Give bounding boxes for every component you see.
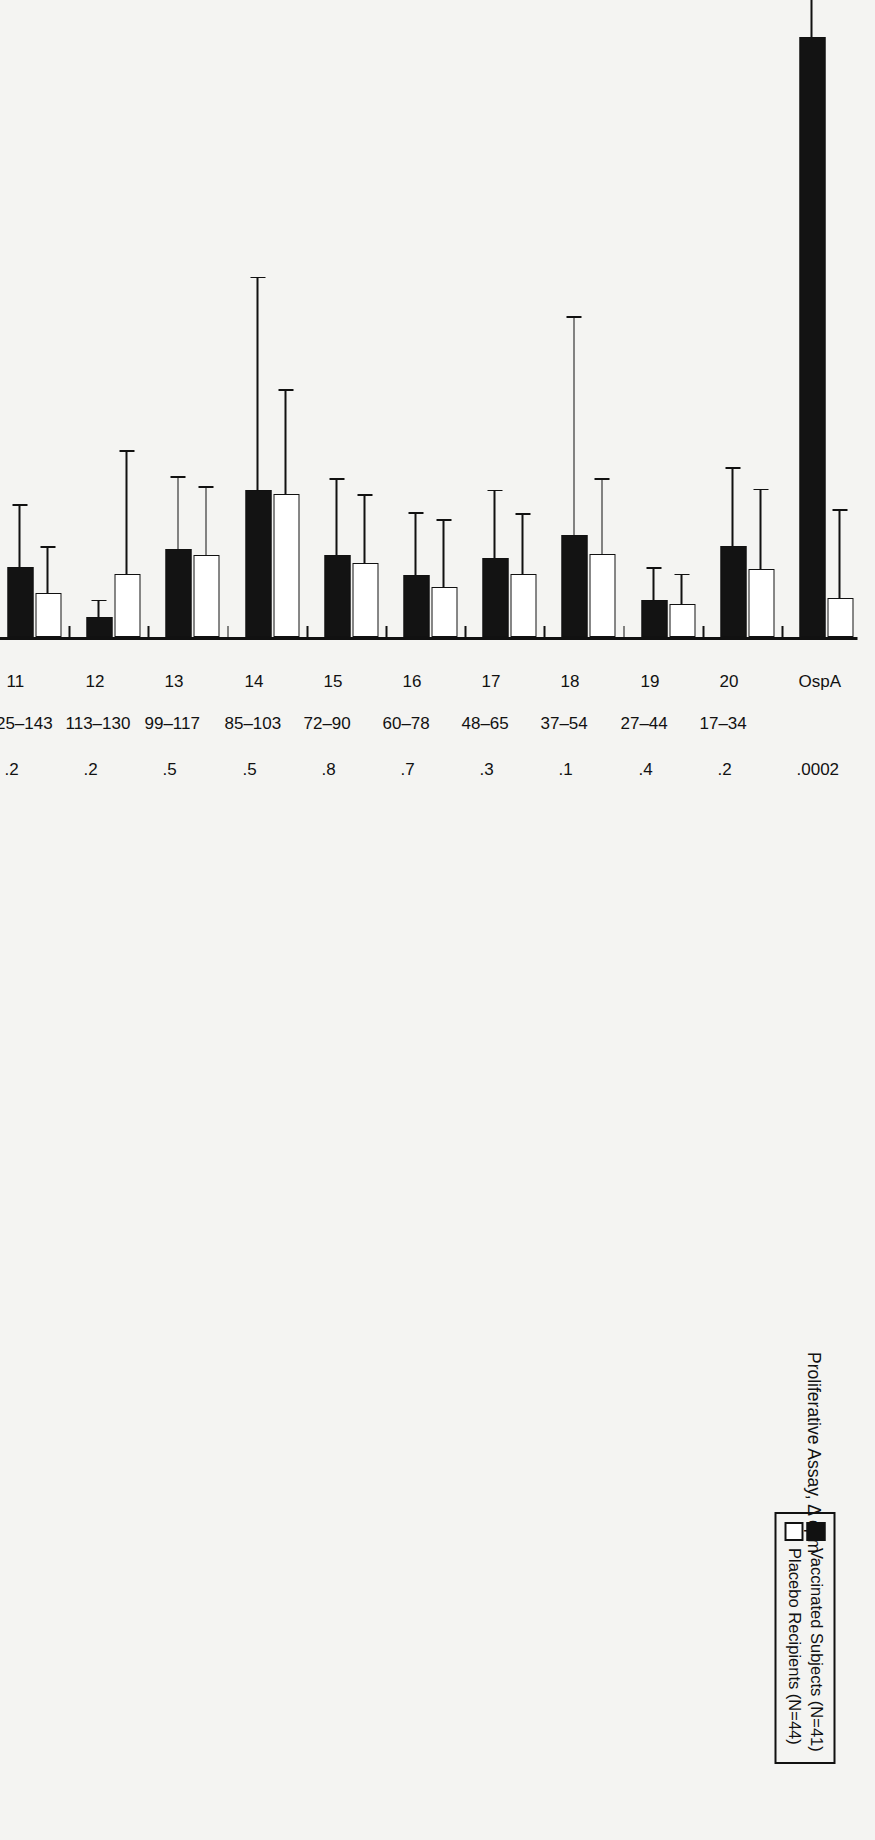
error-bar-vaccinated: [335, 478, 337, 555]
category-label-peptide: 14: [244, 672, 263, 692]
error-bar-cap-placebo: [594, 478, 609, 480]
error-bar-cap-vaccinated: [408, 512, 423, 514]
category-label-amino-acid-no: 85–103: [224, 714, 281, 734]
error-bar-placebo: [601, 478, 603, 554]
error-bar-cap-placebo: [40, 546, 55, 548]
bar-placebo: [273, 494, 299, 637]
category-axis-line: [0, 637, 857, 640]
bar-placebo: [35, 593, 61, 637]
bar-vaccinated: [720, 546, 746, 637]
category-axis-tick: [68, 626, 70, 639]
error-bar-placebo: [205, 486, 207, 555]
bar-placebo: [748, 569, 774, 637]
category-label-peptide: 12: [85, 672, 104, 692]
category-label-p-value: .8: [321, 760, 335, 780]
category-label-p-value: .5: [242, 760, 256, 780]
category-axis-tick: [227, 626, 229, 639]
category-label-peptide: 19: [640, 672, 659, 692]
category-label-amino-acid-no: 27–44: [620, 714, 667, 734]
category-label-peptide: 13: [164, 672, 183, 692]
error-bar-cap-vaccinated: [250, 277, 265, 279]
bar-vaccinated: [165, 549, 191, 637]
bar-placebo: [193, 555, 219, 637]
error-bar-placebo: [838, 509, 840, 599]
error-bar-cap-vaccinated: [12, 504, 27, 506]
category-label-p-value: .0002: [796, 760, 839, 780]
category-label-amino-acid-no: 72–90: [303, 714, 350, 734]
category-label-p-value: .2: [4, 760, 18, 780]
category-axis-tick: [306, 626, 308, 639]
error-bar-placebo: [125, 450, 127, 574]
category-label-amino-acid-no: 60–78: [382, 714, 429, 734]
error-bar-cap-placebo: [753, 489, 768, 491]
bar-vaccinated: [86, 617, 112, 637]
bar-placebo: [510, 574, 536, 637]
category-label-peptide: 18: [560, 672, 579, 692]
error-bar-cap-vaccinated: [646, 567, 661, 569]
category-label-peptide: 16: [402, 672, 421, 692]
category-label-peptide: 17: [481, 672, 500, 692]
error-bar-placebo: [759, 489, 761, 569]
category-label-p-value: .4: [638, 760, 652, 780]
bar-placebo: [431, 587, 457, 637]
category-label-p-value: .2: [83, 760, 97, 780]
error-bar-cap-vaccinated: [91, 600, 106, 602]
bar-placebo: [352, 563, 378, 637]
bar-vaccinated: [245, 490, 271, 637]
bar-placebo: [827, 598, 853, 637]
category-label-p-value: .1: [558, 760, 572, 780]
error-bar-vaccinated: [177, 476, 179, 549]
bar-vaccinated: [641, 600, 667, 637]
category-axis-tick: [623, 626, 625, 639]
category-label-peptide: OspA: [798, 672, 841, 692]
category-label-amino-acid-no: 17–34: [699, 714, 746, 734]
category-label-amino-acid-no: 125–143: [0, 714, 52, 734]
category-label-amino-acid-no: 113–130: [65, 714, 130, 734]
category-axis-tick: [147, 626, 149, 639]
error-bar-placebo: [442, 519, 444, 587]
category-label-amino-acid-no: 48–65: [461, 714, 508, 734]
error-bar-vaccinated: [18, 504, 20, 566]
error-bar-vaccinated: [810, 0, 812, 37]
category-axis-tick: [464, 626, 466, 639]
error-bar-cap-placebo: [357, 494, 372, 496]
error-bar-placebo: [363, 494, 365, 563]
error-bar-placebo: [46, 546, 48, 592]
category-axis-tick: [543, 626, 545, 639]
bar-placebo: [669, 604, 695, 637]
error-bar-vaccinated: [731, 467, 733, 546]
error-bar-vaccinated: [652, 567, 654, 600]
error-bar-cap-vaccinated: [487, 490, 502, 492]
category-axis-tick: [781, 626, 783, 639]
error-bar-vaccinated: [573, 316, 575, 535]
error-bar-cap-vaccinated: [566, 316, 581, 318]
bar-vaccinated: [7, 567, 33, 637]
bar-vaccinated: [799, 37, 825, 637]
error-bar-cap-placebo: [436, 519, 451, 521]
error-bar-vaccinated: [97, 600, 99, 617]
error-bar-cap-vaccinated: [725, 467, 740, 469]
error-bar-cap-vaccinated: [329, 478, 344, 480]
error-bar-placebo: [680, 574, 682, 605]
error-bar-vaccinated: [256, 277, 258, 490]
bar-vaccinated: [324, 555, 350, 637]
bar-vaccinated: [561, 535, 587, 637]
error-bar-placebo: [284, 389, 286, 494]
error-bar-placebo: [521, 513, 523, 573]
category-label-peptide: 11: [6, 672, 24, 692]
error-bar-cap-placebo: [515, 513, 530, 515]
category-label-amino-acid-no: 99–117: [144, 714, 199, 734]
bar-placebo: [114, 574, 140, 637]
chart-figure: Vaccinated Subjects (N=41) Placebo Recip…: [0, 0, 875, 1840]
category-label-p-value: .7: [400, 760, 414, 780]
error-bar-cap-placebo: [278, 389, 293, 391]
category-label-p-value: .2: [717, 760, 731, 780]
category-label-p-value: .5: [162, 760, 176, 780]
error-bar-cap-placebo: [119, 450, 134, 452]
category-axis-tick: [385, 626, 387, 639]
error-bar-cap-placebo: [832, 509, 847, 511]
error-bar-vaccinated: [414, 512, 416, 574]
category-label-p-value: .3: [479, 760, 493, 780]
error-bar-vaccinated: [493, 490, 495, 558]
error-bar-cap-placebo: [674, 574, 689, 576]
